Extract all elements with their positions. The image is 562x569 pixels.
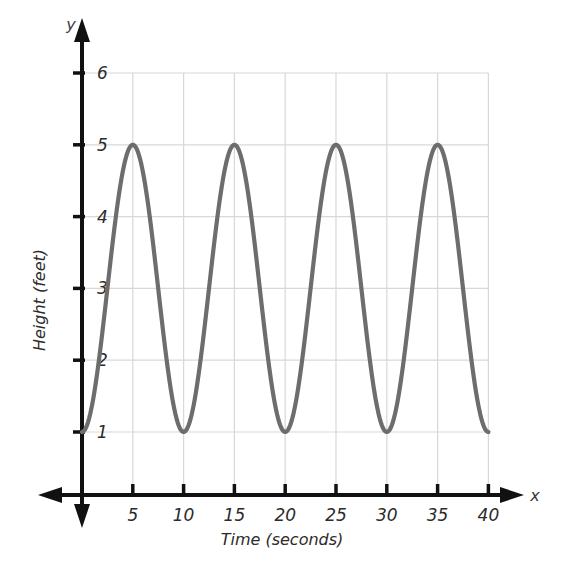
x-tick-label-5: 5 [127,505,138,525]
x-tick-label-40: 40 [478,505,500,525]
x-axis-right-arrow-icon [500,487,524,503]
x-tick-label-25: 25 [325,505,347,525]
x-axis-left-arrow-icon [38,487,62,503]
chart-container: 123456 510152025303540 y x Time (seconds… [0,0,562,569]
y-axis-tick-labels: 123456 [97,63,108,442]
x-tick-label-35: 35 [427,505,449,525]
x-tick-label-30: 30 [376,505,398,525]
y-axis-up-arrow-icon [74,18,90,42]
sinusoid-chart: 123456 510152025303540 y x Time (seconds… [0,0,562,569]
y-axis-name-label: y [65,15,76,34]
y-tick-label-4: 4 [97,207,108,227]
x-axis-tick-labels: 510152025303540 [127,505,499,525]
x-axis-title: Time (seconds) [221,530,344,549]
x-tick-label-10: 10 [173,505,195,525]
y-tick-label-5: 5 [97,135,108,155]
y-tick-label-1: 1 [97,422,108,442]
y-tick-label-6: 6 [97,63,108,83]
x-tick-label-20: 20 [274,505,296,525]
y-axis-down-arrow-icon [74,504,90,528]
y-axis-title: Height (feet) [30,249,49,351]
x-tick-label-15: 15 [224,505,246,525]
x-axis-name-label: x [529,486,540,505]
